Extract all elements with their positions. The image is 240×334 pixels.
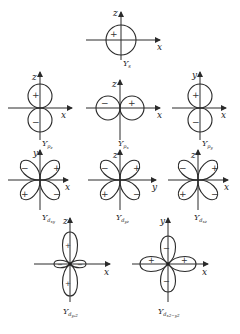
orbital-label: Ydy₂2 [63,307,78,318]
x-axis-label: x [61,110,66,120]
orbital-label: Ypz [42,139,53,150]
z-axis-label: z [31,72,37,82]
orbital-dz2: z x + − − + Ydy₂2 [34,216,110,318]
orbital-label: Ydx2−y2 [158,307,180,318]
orbital-px: z x − + Ypx [86,79,162,150]
x-axis-label: x [104,267,109,277]
sign-plus: + [32,90,40,100]
sign: + [65,242,71,250]
orbital-dyz: z y − + + − Ydyz [88,150,158,224]
orbital-label: Ydxy [42,213,56,224]
sign: − [163,244,170,253]
sign: − [211,189,219,199]
orbital-dx2-y2: y x − + + − Ydx2−y2 [132,216,208,318]
x-axis-label: x [221,110,226,120]
z-axis-label: z [190,150,196,160]
z-axis-label: z [111,79,117,89]
x-axis-label: x [157,110,162,120]
z-axis-label: z [112,150,118,160]
sign: − [53,189,61,199]
x-axis-label: x [202,267,207,277]
orbital-dxz: z x − + + − Ydxz [168,150,229,224]
sign: + [53,163,61,173]
sign: + [65,280,71,288]
sign: + [181,256,188,265]
orbital-label: Ys [123,59,131,69]
y-axis-label: y [191,70,198,80]
sign: − [57,261,63,269]
sign: + [21,189,29,199]
sign: − [77,261,83,269]
y-axis-label: y [159,216,166,226]
x-axis-label: x [157,42,162,52]
sign: − [101,163,109,173]
x-axis-label: x [224,182,229,192]
orbital-diagram: z x + Ys z x + − Ypz z x − + Ypx y x + − [0,0,240,334]
z-axis-label: z [62,216,68,226]
sign-minus: − [32,117,40,127]
sign: − [163,277,170,286]
orbital-s: z x + Ys [86,8,162,69]
sign-minus: − [101,98,109,108]
orbital-label: Ydyz [116,213,130,224]
orbital-label: Ypx [118,139,129,150]
sign: − [179,163,187,173]
sign-plus: + [128,98,136,108]
sign-minus: − [192,117,200,127]
sign: + [148,256,155,265]
sign: − [133,189,141,199]
sign: − [21,163,29,173]
y-axis-label: y [32,148,39,158]
orbital-label: Ypy [202,139,213,150]
sign-plus: + [192,90,200,100]
sign: + [179,189,187,199]
x-axis-label: x [65,182,70,192]
y-axis-label: y [151,182,158,192]
sign: + [133,163,141,173]
orbital-pz: z x + − Ypz [8,72,72,150]
orbital-py: y x + − Ypy [172,70,226,150]
sign-plus: + [110,29,118,39]
sign: + [211,163,219,173]
orbital-dxy: y x − + + − Ydxy [8,148,70,224]
sign: + [101,189,109,199]
z-axis-label: z [112,8,118,18]
orbital-label: Ydxz [194,213,208,224]
